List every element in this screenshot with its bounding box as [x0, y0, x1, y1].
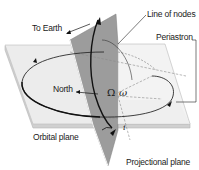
periastron-label: Periastron — [156, 33, 193, 42]
projectional-plane-label: Projectional plane — [126, 158, 190, 167]
to-earth-label: To Earth — [32, 24, 62, 33]
ascending-node-symbol: Ω — [107, 88, 115, 98]
inclination-symbol: i — [123, 124, 126, 132]
to-earth-arrow-icon — [66, 30, 71, 34]
orbit-diagram — [0, 0, 199, 170]
line-of-nodes-leader — [118, 15, 146, 44]
line-of-nodes-label: Line of nodes — [147, 10, 195, 19]
periastron-argument-symbol: ω — [119, 88, 127, 98]
orbital-plane-label: Orbital plane — [33, 133, 79, 142]
north-label: North — [53, 85, 73, 94]
